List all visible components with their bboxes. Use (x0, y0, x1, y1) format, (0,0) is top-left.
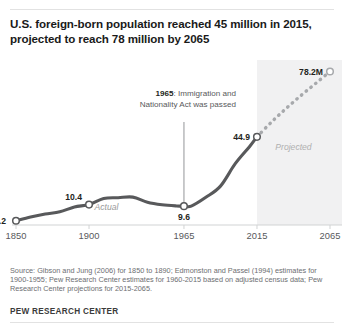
data-point-marker (13, 217, 20, 224)
data-point-marker (181, 203, 188, 210)
data-point-marker (254, 134, 261, 141)
source-note: Source: Gibson and Jung (2006) for 1850 … (10, 266, 330, 293)
x-tick-label: 1900 (79, 230, 100, 241)
brand-footer: PEW RESEARCH CENTER (10, 307, 119, 316)
top-divider (10, 9, 334, 10)
annotation-text: 1965: Immigration andNationality Act was… (140, 89, 236, 109)
data-point-marker (86, 201, 93, 208)
data-point-label: 10.4 (65, 192, 82, 202)
projected-label: Projected (275, 142, 312, 152)
series-actual (16, 137, 257, 221)
annotation-line-2: Nationality Act was passed (140, 100, 236, 109)
data-point-marker (327, 68, 334, 75)
line-chart: 2.210.49.644.978.2M 18501900196520152065… (0, 58, 344, 263)
x-tick-label: 2015 (247, 230, 268, 241)
data-point-label: 2.2 (0, 216, 6, 226)
data-point-label: 78.2M (299, 67, 323, 77)
x-tick-label: 1850 (6, 230, 27, 241)
x-tick-label: 1965 (174, 230, 195, 241)
data-point-label: 9.6 (178, 212, 190, 222)
annotation-leader-line (182, 122, 185, 206)
x-axis-tick-labels: 18501900196520152065 (6, 230, 341, 241)
actual-label: Actual (94, 202, 120, 212)
infographic-card: U.S. foreign-born population reached 45 … (0, 0, 344, 334)
page-title: U.S. foreign-born population reached 45 … (10, 17, 328, 46)
x-axis (12, 225, 342, 229)
chart-svg: 2.210.49.644.978.2M 18501900196520152065… (0, 58, 344, 263)
x-tick-label: 2065 (320, 230, 341, 241)
bottom-divider (10, 322, 334, 323)
annotation-line-1: 1965: Immigration and (155, 89, 236, 98)
data-point-label: 44.9 (233, 132, 250, 142)
